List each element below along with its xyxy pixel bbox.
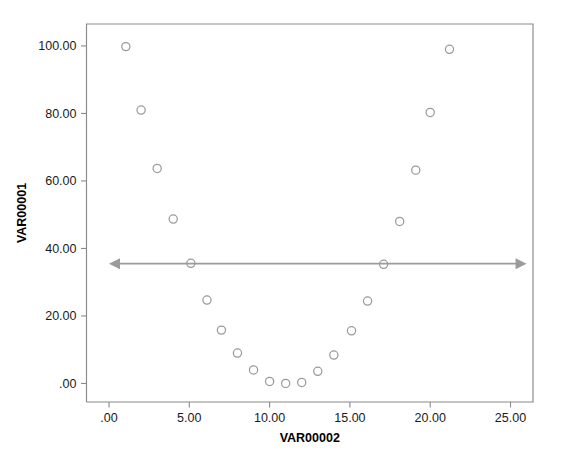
annotation-layer xyxy=(109,258,527,269)
data-point-marker xyxy=(314,367,322,375)
y-tick-label: 20.00 xyxy=(45,309,76,323)
x-tick-label: 10.00 xyxy=(254,411,285,425)
x-tick-label: .00 xyxy=(100,411,117,425)
data-point-marker xyxy=(298,378,306,386)
y-tick-label: 80.00 xyxy=(45,107,76,121)
x-tick-label: 20.00 xyxy=(415,411,446,425)
data-point-marker xyxy=(412,166,420,174)
double-headed-horizontal-arrow xyxy=(109,258,527,269)
data-point-marker xyxy=(363,297,371,305)
annotation-arrowhead-left xyxy=(109,258,120,269)
y-axis-ticks xyxy=(81,46,87,384)
data-point-marker xyxy=(169,215,177,223)
data-point-marker xyxy=(233,349,241,357)
scatter-plot-figure: .005.0010.0015.0020.0025.00 .0020.0040.0… xyxy=(0,0,561,458)
data-point-marker xyxy=(203,296,211,304)
x-tick-label: 15.00 xyxy=(334,411,365,425)
y-tick-label: 60.00 xyxy=(45,174,76,188)
data-point-marker xyxy=(249,366,257,374)
plot-canvas: .005.0010.0015.0020.0025.00 .0020.0040.0… xyxy=(0,0,561,458)
x-axis-ticks xyxy=(109,402,511,408)
y-axis-title: VAR00001 xyxy=(15,183,29,243)
data-point-marker xyxy=(122,43,130,51)
x-tick-label: 5.00 xyxy=(177,411,201,425)
x-tick-label: 25.00 xyxy=(495,411,526,425)
plot-frame xyxy=(87,24,534,402)
data-point-marker xyxy=(137,106,145,114)
data-point-series xyxy=(122,43,454,388)
data-point-marker xyxy=(282,379,290,387)
y-axis-tick-labels: .0020.0040.0060.0080.00100.00 xyxy=(38,39,76,391)
x-axis-title: VAR00002 xyxy=(280,431,340,445)
data-point-marker xyxy=(347,327,355,335)
y-tick-label: 40.00 xyxy=(45,242,76,256)
data-point-marker xyxy=(330,351,338,359)
data-point-marker xyxy=(445,45,453,53)
data-point-marker xyxy=(153,164,161,172)
data-point-marker xyxy=(426,108,434,116)
y-tick-label: 100.00 xyxy=(38,39,76,53)
data-point-marker xyxy=(217,326,225,334)
data-point-marker xyxy=(265,377,273,385)
x-axis-tick-labels: .005.0010.0015.0020.0025.00 xyxy=(100,411,526,425)
annotation-arrowhead-right xyxy=(516,258,527,269)
y-tick-label: .00 xyxy=(59,377,76,391)
data-point-marker xyxy=(396,217,404,225)
